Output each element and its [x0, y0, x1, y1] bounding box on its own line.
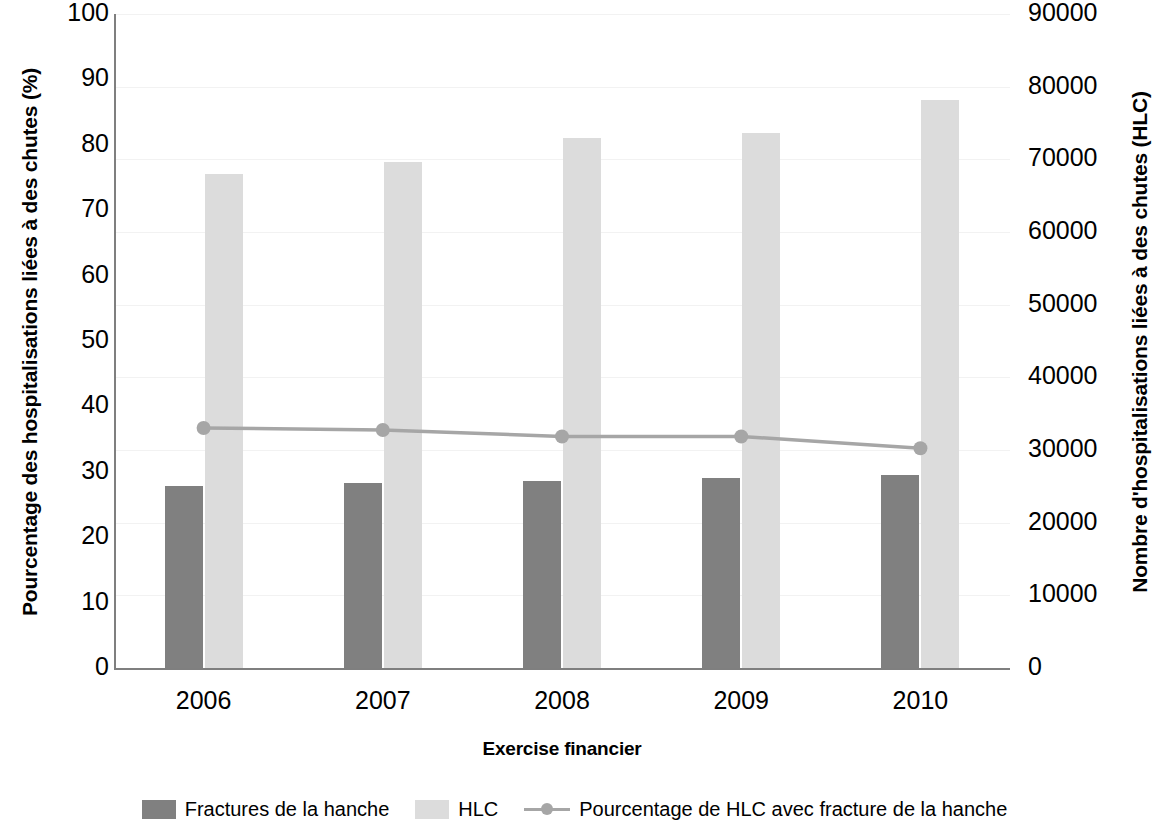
y-tick-label-left: 10	[0, 589, 109, 614]
legend-item-label: Fractures de la hanche	[185, 798, 390, 821]
y-tick-label-right: 60000	[1028, 218, 1156, 243]
y-tick-label-right: 10000	[1028, 581, 1156, 606]
legend-item[interactable]: HLC	[415, 798, 498, 821]
y-tick-label-right: 30000	[1028, 436, 1156, 461]
line-series	[114, 14, 1010, 670]
y-tick-label-left: 100	[0, 0, 109, 25]
legend-item-label: HLC	[458, 798, 498, 821]
y-tick-label-left: 50	[0, 327, 109, 352]
y-tick-label-right: 0	[1028, 654, 1156, 679]
x-tick-label: 2008	[502, 686, 622, 715]
line-marker-percentage	[197, 421, 211, 435]
x-tick-label: 2006	[144, 686, 264, 715]
x-tick-label: 2007	[323, 686, 443, 715]
plot-area	[114, 14, 1010, 670]
legend-item[interactable]: Pourcentage de HLC avec fracture de la h…	[524, 798, 1007, 821]
legend-line-marker-icon	[524, 800, 570, 819]
legend-item[interactable]: Fractures de la hanche	[142, 798, 390, 821]
legend-item-label: Pourcentage de HLC avec fracture de la h…	[579, 798, 1007, 821]
y-tick-label-right: 20000	[1028, 509, 1156, 534]
y-tick-label-left: 0	[0, 654, 109, 679]
chart-legend: Fractures de la hancheHLCPourcentage de …	[0, 798, 1149, 821]
y-tick-label-right: 50000	[1028, 291, 1156, 316]
x-tick-label: 2009	[681, 686, 801, 715]
y-tick-label-right: 90000	[1028, 0, 1156, 25]
legend-swatch-hlc-icon	[415, 800, 449, 819]
y-tick-label-right: 80000	[1028, 73, 1156, 98]
y-tick-label-left: 40	[0, 392, 109, 417]
line-marker-percentage	[555, 429, 569, 443]
line-marker-percentage	[376, 423, 390, 437]
y-tick-label-left: 70	[0, 196, 109, 221]
x-tick-label: 2010	[860, 686, 980, 715]
line-marker-percentage	[734, 429, 748, 443]
y-tick-label-right: 40000	[1028, 363, 1156, 388]
line-marker-percentage	[913, 441, 927, 455]
x-axis-title: Exercise financier	[114, 738, 1010, 760]
y-tick-label-left: 90	[0, 65, 109, 90]
y-tick-label-right: 70000	[1028, 145, 1156, 170]
y-tick-label-left: 60	[0, 262, 109, 287]
y-tick-label-left: 20	[0, 523, 109, 548]
legend-swatch-hip-icon	[142, 800, 176, 819]
y-tick-label-left: 80	[0, 131, 109, 156]
y-tick-label-left: 30	[0, 458, 109, 483]
